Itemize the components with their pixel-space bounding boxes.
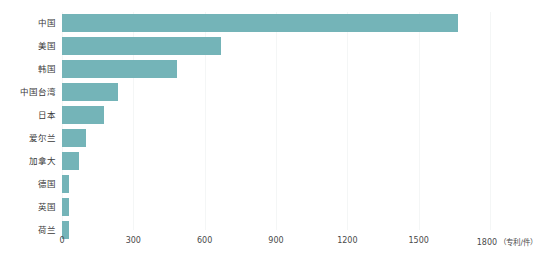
axis-unit-label: （专利/件）: [497, 238, 537, 247]
category-label: 中国台湾: [2, 83, 56, 101]
bar-fill: [62, 60, 177, 78]
x-tick-label: 1800 （专利/件）: [477, 236, 537, 247]
bar-fill: [62, 175, 69, 193]
gridline: [276, 12, 277, 230]
bar: [62, 129, 86, 147]
category-label: 加拿大: [2, 152, 56, 170]
bar: [62, 152, 79, 170]
bar: [62, 14, 458, 32]
gridline: [419, 12, 420, 230]
gridline: [490, 12, 491, 230]
category-label: 英国: [2, 198, 56, 216]
bar: [62, 83, 118, 101]
x-tick-label: 1200: [337, 236, 357, 245]
gridline: [347, 12, 348, 230]
bar-fill: [62, 37, 221, 55]
category-label: 韩国: [2, 60, 56, 78]
bar-fill: [62, 14, 458, 32]
x-tick-label: 300: [126, 236, 141, 245]
category-label: 德国: [2, 175, 56, 193]
category-axis: 中国美国韩国中国台湾日本爱尔兰加拿大德国英国荷兰: [0, 12, 56, 230]
category-label: 日本: [2, 106, 56, 124]
bar-chart: 中国美国韩国中国台湾日本爱尔兰加拿大德国英国荷兰 030060090012001…: [0, 0, 559, 277]
category-label: 荷兰: [2, 221, 56, 239]
bar: [62, 106, 104, 124]
bar-fill: [62, 129, 86, 147]
x-tick-label: 900: [268, 236, 283, 245]
bar-fill: [62, 106, 104, 124]
bar: [62, 198, 69, 216]
bar: [62, 37, 221, 55]
x-tick-label: 600: [197, 236, 212, 245]
bar-fill: [62, 152, 79, 170]
bar-fill: [62, 83, 118, 101]
category-label: 美国: [2, 37, 56, 55]
bar-fill: [62, 198, 69, 216]
bar: [62, 175, 69, 193]
category-label: 中国: [2, 14, 56, 32]
category-label: 爱尔兰: [2, 129, 56, 147]
x-tick-label: 1500: [408, 236, 428, 245]
plot-area: [62, 12, 490, 230]
bar: [62, 60, 177, 78]
x-tick-label: 0: [59, 236, 64, 245]
